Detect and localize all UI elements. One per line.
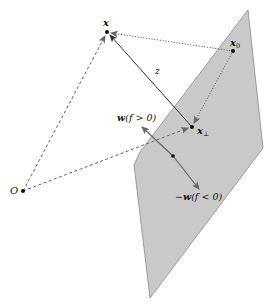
label-x: x (102, 17, 110, 28)
vector-origin-to-x (23, 36, 105, 191)
label-z: z (154, 66, 160, 76)
point-origin (21, 189, 25, 193)
point-x-perp (190, 125, 194, 129)
point-plane-center (171, 154, 175, 158)
vector-x0-to-x (111, 33, 233, 51)
hyperplane-diagram: x x0 x⊥ O z w(f > 0) −w(f < 0) (0, 0, 274, 308)
point-x0 (231, 49, 235, 53)
point-x (105, 30, 109, 34)
label-origin: O (10, 185, 18, 196)
decision-plane (134, 10, 263, 298)
label-w-positive: w(f > 0) (117, 112, 156, 123)
label-w-negative: −w(f < 0) (175, 191, 222, 202)
